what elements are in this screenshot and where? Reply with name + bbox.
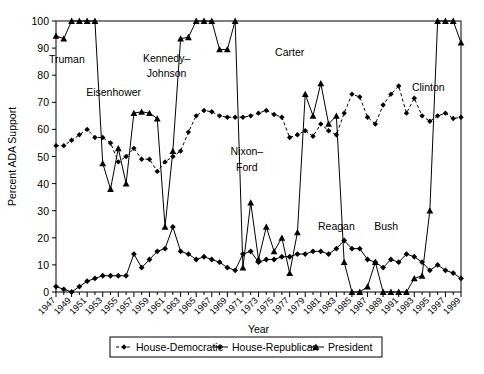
- y-tick-label: 40: [37, 178, 49, 190]
- data-point-marker: [115, 145, 122, 151]
- data-point-marker: [201, 108, 206, 113]
- data-point-marker: [123, 180, 130, 186]
- data-point-marker: [271, 248, 278, 254]
- annotation-eisenhower: Eisenhower: [86, 86, 141, 98]
- data-point-marker: [209, 109, 214, 114]
- data-point-marker: [264, 108, 269, 113]
- data-point-marker: [169, 148, 176, 154]
- annotation-bush: Bush: [374, 220, 398, 232]
- data-point-marker: [209, 257, 215, 263]
- legend-label: President: [328, 341, 372, 353]
- data-point-marker: [302, 251, 308, 257]
- data-point-marker: [295, 251, 301, 257]
- data-point-marker: [334, 132, 339, 137]
- data-point-marker: [92, 276, 98, 282]
- x-axis-title: Year: [248, 323, 270, 335]
- data-point-marker: [411, 275, 418, 281]
- annotation-reagan: Reagan: [318, 220, 355, 232]
- data-point-marker: [100, 273, 106, 279]
- y-tick-label: 30: [37, 205, 49, 217]
- data-point-marker: [224, 265, 230, 271]
- data-point-marker: [317, 80, 324, 86]
- data-point-marker: [279, 254, 285, 260]
- series-house-republican: [53, 224, 464, 295]
- data-point-marker: [155, 169, 160, 174]
- data-point-marker: [419, 113, 424, 118]
- data-point-marker: [76, 284, 82, 290]
- data-point-marker: [201, 254, 207, 260]
- data-point-marker: [178, 248, 184, 254]
- data-point-marker: [170, 154, 175, 159]
- annotation-johnson: Johnson: [147, 67, 187, 79]
- data-point-marker: [123, 273, 129, 279]
- data-point-marker: [61, 143, 66, 148]
- annotation-carter: Carter: [275, 46, 305, 58]
- y-tick-label: 10: [37, 259, 49, 271]
- ada-support-line-chart: 0102030405060708090100Percent ADA Suppor…: [0, 0, 484, 374]
- data-point-marker: [240, 264, 247, 270]
- data-point-marker: [225, 115, 230, 120]
- data-point-marker: [138, 108, 145, 114]
- data-point-marker: [263, 257, 269, 263]
- data-point-marker: [115, 273, 121, 279]
- annotation-nixon: Nixon–: [230, 145, 263, 157]
- data-point-marker: [318, 121, 323, 126]
- data-point-marker: [217, 113, 222, 118]
- x-tick-label: 1999: [441, 295, 462, 316]
- data-point-marker: [256, 110, 261, 115]
- data-point-marker: [294, 229, 301, 235]
- data-point-marker: [458, 39, 465, 45]
- data-point-marker: [287, 135, 292, 140]
- data-point-marker: [162, 246, 168, 252]
- y-tick-label: 60: [37, 123, 49, 135]
- data-point-marker: [326, 251, 332, 257]
- data-point-marker: [84, 278, 90, 284]
- annotation-truman: Truman: [49, 53, 85, 65]
- data-point-marker: [349, 91, 354, 96]
- data-point-marker: [147, 157, 152, 162]
- data-point-marker: [131, 251, 137, 257]
- data-point-marker: [326, 128, 331, 133]
- y-tick-label: 50: [37, 151, 49, 163]
- data-point-marker: [286, 270, 293, 276]
- data-point-marker: [419, 272, 426, 278]
- y-tick-label: 100: [31, 15, 49, 27]
- y-tick-label: 20: [37, 232, 49, 244]
- legend-label: House-Republican: [232, 341, 319, 353]
- data-point-marker: [60, 35, 67, 41]
- data-point-marker: [185, 34, 192, 40]
- data-point-marker: [248, 113, 253, 118]
- data-point-marker: [380, 102, 385, 107]
- legend-label: House-Democratic: [136, 341, 223, 353]
- data-point-marker: [302, 91, 309, 97]
- data-point-marker: [193, 257, 199, 263]
- data-point-marker: [404, 110, 409, 115]
- data-point-marker: [295, 132, 300, 137]
- data-point-marker: [53, 143, 58, 148]
- data-point-marker: [263, 224, 270, 230]
- y-axis-title: Percent ADA Support: [6, 107, 18, 206]
- data-point-marker: [341, 110, 346, 115]
- data-point-marker: [53, 284, 59, 290]
- data-point-marker: [278, 234, 285, 240]
- data-point-marker: [186, 129, 191, 134]
- annotation-ford: Ford: [236, 161, 258, 173]
- data-point-marker: [426, 207, 433, 213]
- data-point-marker: [458, 276, 464, 282]
- data-point-marker: [162, 224, 169, 230]
- y-tick-label: 80: [37, 69, 49, 81]
- data-point-marker: [61, 286, 67, 292]
- data-point-marker: [53, 33, 60, 39]
- chart-figure: 0102030405060708090100Percent ADA Suppor…: [0, 0, 484, 374]
- data-point-marker: [154, 115, 161, 121]
- annotation-clinton: Clinton: [412, 81, 445, 93]
- data-point-marker: [271, 112, 276, 117]
- annotation-kennedy: Kennedy–: [143, 52, 190, 64]
- data-point-marker: [357, 94, 362, 99]
- data-point-marker: [287, 254, 293, 260]
- data-point-marker: [170, 224, 176, 230]
- data-point-marker: [232, 115, 237, 120]
- data-point-marker: [271, 257, 277, 263]
- data-point-marker: [232, 267, 238, 273]
- data-point-marker: [310, 112, 317, 118]
